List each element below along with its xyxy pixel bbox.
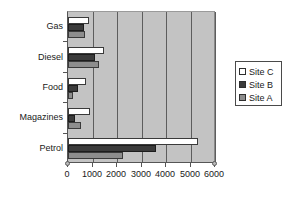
legend-swatch-icon	[239, 81, 246, 88]
bar-petrol-site-c	[68, 138, 198, 145]
plot-area	[67, 11, 215, 163]
chart-legend: Site CSite BSite A	[235, 61, 282, 106]
bar-magazines-site-c	[68, 108, 90, 115]
category-label-diesel: Diesel	[3, 52, 63, 62]
legend-label: Site B	[249, 80, 273, 90]
category-label-gas: Gas	[3, 21, 63, 31]
legend-swatch-icon	[239, 94, 246, 101]
legend-label: Site A	[249, 93, 273, 103]
category-label-petrol: Petrol	[3, 143, 63, 153]
legend-item-site-c[interactable]: Site C	[239, 65, 281, 78]
bar-diesel-site-c	[68, 47, 104, 54]
y-axis-labels: GasDieselFoodMagazinesPetrol	[0, 11, 63, 163]
y-axis-tick	[63, 41, 67, 42]
x-axis-end-cap	[212, 161, 217, 166]
bar-diesel-site-a	[68, 61, 99, 68]
legend-item-site-a[interactable]: Site A	[239, 91, 281, 104]
y-axis-tick	[63, 102, 67, 103]
legend-item-site-b[interactable]: Site B	[239, 78, 281, 91]
bar-food-site-b	[68, 85, 78, 92]
category-label-food: Food	[3, 82, 63, 92]
x-axis-start-cap	[65, 161, 70, 166]
bar-diesel-site-b	[68, 54, 95, 61]
bar-petrol-site-b	[68, 145, 156, 152]
bar-gas-site-c	[68, 17, 89, 24]
bar-magazines-site-b	[68, 115, 75, 122]
bar-gas-site-b	[68, 24, 84, 31]
y-axis-tick	[63, 72, 67, 73]
legend-label: Site C	[249, 67, 274, 77]
x-axis-label: 6000	[199, 169, 229, 180]
y-axis-tick	[63, 133, 67, 134]
x-axis-tick	[116, 163, 117, 167]
legend-swatch-icon	[239, 68, 246, 75]
bar-chart: GasDieselFoodMagazinesPetrol 01000200030…	[0, 0, 291, 197]
x-axis-tick	[141, 163, 142, 167]
bar-petrol-site-a	[68, 152, 123, 159]
x-axis-tick	[190, 163, 191, 167]
bar-gas-site-a	[68, 31, 85, 38]
gridline	[215, 12, 216, 162]
bar-magazines-site-a	[68, 122, 81, 129]
x-axis-tick	[92, 163, 93, 167]
bar-food-site-a	[68, 92, 73, 99]
bar-food-site-c	[68, 78, 86, 85]
category-label-magazines: Magazines	[3, 112, 63, 122]
x-axis-tick	[165, 163, 166, 167]
